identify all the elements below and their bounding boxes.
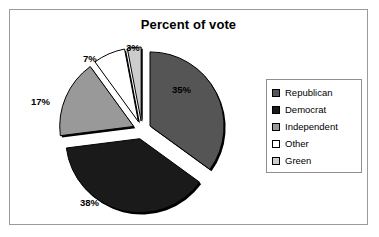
- legend-item-label: Green: [285, 156, 311, 166]
- legend-item-label: Democrat: [285, 105, 326, 115]
- pie-slice-group: [60, 47, 226, 214]
- chart-frame: Percent of vote 35% 38% 17% 7% 3% Republ…: [9, 9, 368, 225]
- pie-slice-republican[interactable]: [150, 52, 224, 169]
- screenshot-root: Percent of vote 35% 38% 17% 7% 3% Republ…: [0, 0, 379, 237]
- legend-item-democrat[interactable]: Democrat: [272, 101, 361, 118]
- legend-item-independent[interactable]: Independent: [272, 118, 361, 135]
- legend-item-republican[interactable]: Republican: [272, 84, 361, 101]
- legend-swatch-green: [272, 157, 280, 165]
- pie-chart-plot-area: 35% 38% 17% 7% 3%: [22, 34, 262, 220]
- legend-swatch-republican: [272, 89, 280, 97]
- chart-legend: RepublicanDemocratIndependentOtherGreen: [266, 79, 362, 173]
- data-label-independent: 17%: [31, 96, 50, 107]
- legend-swatch-democrat: [272, 106, 280, 114]
- data-label-green: 3%: [126, 42, 140, 53]
- legend-item-green[interactable]: Green: [272, 152, 361, 169]
- data-label-republican: 35%: [172, 84, 191, 95]
- chart-title: Percent of vote: [10, 17, 367, 32]
- legend-item-label: Republican: [285, 88, 333, 98]
- legend-swatch-other: [272, 140, 280, 148]
- legend-item-other[interactable]: Other: [272, 135, 361, 152]
- pie-chart-svg: [22, 34, 262, 220]
- legend-swatch-independent: [272, 123, 280, 131]
- data-label-democrat: 38%: [80, 197, 99, 208]
- legend-item-label: Independent: [285, 122, 338, 132]
- data-label-other: 7%: [83, 53, 97, 64]
- legend-item-label: Other: [285, 139, 309, 149]
